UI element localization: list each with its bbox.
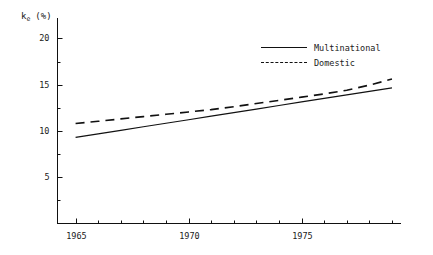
y-axis-tick-label: 15 <box>28 80 50 90</box>
legend-label-multinational: Multinational <box>314 43 381 53</box>
chart-legend: Multinational Domestic <box>261 40 381 70</box>
legend-label-domestic: Domestic <box>314 58 355 68</box>
x-axis-tick-label: 1970 <box>170 231 210 241</box>
y-axis-ticks <box>58 39 63 201</box>
legend-swatch-dashed-line <box>261 58 307 68</box>
y-axis-tick-label: 5 <box>28 172 50 182</box>
x-axis-tick-label: 1965 <box>57 231 97 241</box>
series-lines-group <box>76 79 392 137</box>
chart-container: ke(%) 5101520 196519701975 Multinational… <box>0 0 433 255</box>
legend-item-multinational: Multinational <box>261 40 381 55</box>
x-axis-tick-label: 1975 <box>283 231 323 241</box>
series-line-multinational <box>76 88 392 138</box>
y-axis-tick-label: 20 <box>28 33 50 43</box>
plot-svg <box>0 0 433 255</box>
y-axis-tick-label: 10 <box>28 126 50 136</box>
series-line-domestic <box>76 79 392 123</box>
legend-item-domestic: Domestic <box>261 55 381 70</box>
x-axis-ticks <box>77 219 393 224</box>
legend-swatch-solid-line <box>261 43 307 53</box>
